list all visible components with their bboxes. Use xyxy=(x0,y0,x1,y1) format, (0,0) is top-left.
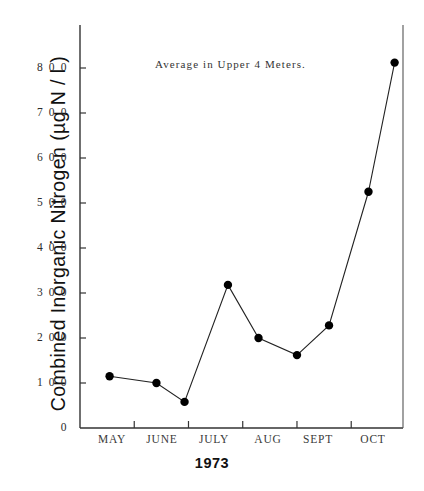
data-point xyxy=(224,281,232,289)
data-point xyxy=(364,188,372,196)
data-series-line xyxy=(110,63,395,402)
data-point xyxy=(293,351,301,359)
data-point xyxy=(390,58,398,66)
data-point-markers xyxy=(105,58,398,406)
data-point xyxy=(325,321,333,329)
plot-area xyxy=(0,0,424,491)
axes xyxy=(80,25,403,428)
y-tick-marks xyxy=(80,68,86,383)
figure: Combined Inorganic Nitrogen (µg N / l ) … xyxy=(0,0,424,491)
data-point xyxy=(180,398,188,406)
x-tick-marks xyxy=(134,421,351,428)
data-point xyxy=(105,372,113,380)
data-point xyxy=(254,334,262,342)
data-point xyxy=(152,379,160,387)
